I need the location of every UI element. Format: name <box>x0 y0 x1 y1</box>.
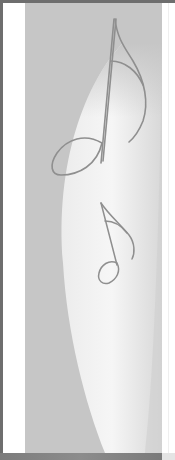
left-white-margin <box>3 3 25 453</box>
banner-artwork <box>25 3 162 453</box>
bottom-border-bar <box>0 453 162 460</box>
decorative-banner-panel <box>25 3 162 453</box>
right-margin-divider <box>168 3 169 453</box>
bottom-border-bar-end <box>162 453 175 460</box>
